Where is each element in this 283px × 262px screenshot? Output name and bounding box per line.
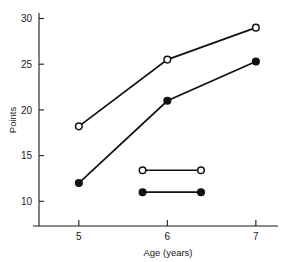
legend-item-filled-circle-swatch — [139, 189, 204, 196]
y-tick-label: 25 — [21, 59, 33, 70]
series-polyline — [79, 61, 256, 183]
x-axis-ticks: 567 — [76, 220, 259, 242]
y-tick-label: 30 — [21, 13, 33, 24]
x-tick-label: 7 — [253, 231, 259, 242]
data-point-open-circle — [253, 24, 260, 31]
y-tick-label: 15 — [21, 150, 33, 161]
chart-legend — [139, 167, 204, 196]
series-open-circle-series — [76, 24, 260, 129]
legend-marker-open-circle — [139, 167, 146, 174]
x-axis-title: Age (years) — [143, 247, 192, 258]
series-layer — [76, 24, 260, 186]
x-tick-label: 5 — [76, 231, 82, 242]
legend-marker-open-circle — [198, 167, 205, 174]
series-polyline — [79, 28, 256, 127]
y-tick-label: 10 — [21, 196, 33, 207]
chart-figure: 1015202530 567 Points Age (years) — [0, 0, 283, 262]
line-chart: 1015202530 567 Points Age (years) — [0, 0, 283, 262]
x-tick-label: 6 — [165, 231, 171, 242]
legend-marker-filled-circle — [198, 189, 205, 196]
data-point-filled-circle — [253, 58, 260, 65]
y-axis-ticks: 1015202530 — [21, 13, 44, 207]
series-filled-circle-series — [76, 58, 260, 186]
legend-marker-filled-circle — [139, 189, 146, 196]
data-point-filled-circle — [76, 180, 83, 187]
legend-item-open-circle-swatch — [139, 167, 204, 174]
y-axis-title: Points — [7, 107, 18, 134]
y-tick-label: 20 — [21, 105, 33, 116]
data-point-filled-circle — [164, 97, 171, 104]
data-point-open-circle — [76, 123, 83, 130]
data-point-open-circle — [164, 56, 171, 63]
